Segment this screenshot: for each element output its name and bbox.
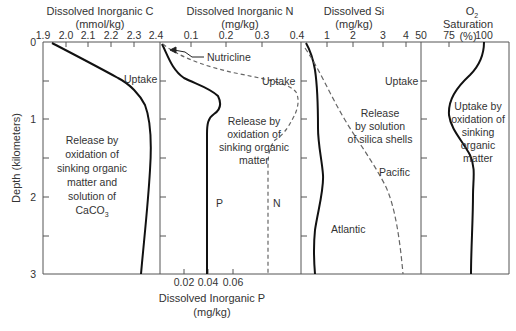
y-tick-2: 2 [30, 191, 36, 203]
silica-uptake-label: Uptake [385, 75, 418, 87]
silica-tick-4: 4 [403, 29, 409, 41]
carbon-tick-2.2: 2.2 [104, 29, 119, 41]
svg-text:Release by: Release by [66, 134, 119, 146]
svg-text:of silica shells: of silica shells [348, 133, 413, 145]
svg-text:Release: Release [361, 107, 400, 119]
silica-tick-3: 3 [380, 29, 386, 41]
nitrogen-title: Dissolved Inorganic N [187, 5, 294, 17]
oxygen-tick-50: 50 [415, 29, 427, 41]
svg-text:by solution: by solution [355, 120, 405, 132]
oxygen-title: O2 [466, 5, 479, 19]
svg-text:Release by: Release by [228, 115, 281, 127]
p-tick-0.04: 0.04 [198, 276, 219, 288]
oxygen-tick-75: 75 [443, 29, 455, 41]
nitrogen-uptake-label: Uptake [262, 75, 295, 87]
carbon-uptake-label: Uptake [124, 73, 157, 85]
pacific-label: Pacific [379, 166, 410, 178]
y-axis-label: Depth (kilometers) [10, 113, 22, 203]
svg-text:Uptake by: Uptake by [454, 100, 502, 112]
nutricline-label: Nutricline [207, 51, 251, 63]
n-series-label: N [273, 197, 281, 209]
carbon-tick-2.4: 2.4 [149, 29, 164, 41]
silica-annotation: Release by solution of silica shells [348, 107, 413, 145]
svg-text:solution of: solution of [68, 190, 116, 202]
y-tick-1: 1 [30, 113, 36, 125]
svg-text:CaCO3: CaCO3 [75, 204, 108, 218]
phosphorus-curve [162, 44, 220, 274]
carbon-tick-2.0: 2.0 [59, 29, 74, 41]
nitrogen-annotation: Release by oxidation of sinking organic … [219, 115, 289, 166]
carbon-title: Dissolved Inorganic C [47, 5, 154, 17]
svg-text:oxidation of: oxidation of [227, 128, 281, 140]
nitrogen-tick-0.4: 0.4 [290, 29, 305, 41]
phosphorus-units: (mg/kg) [193, 306, 230, 318]
ocean-profiles-chart: 0 1 2 3 Depth (kilometers) Dissolved Ino… [0, 0, 516, 331]
silica-atlantic-curve [306, 43, 323, 274]
silica-title: Dissolved Si [324, 5, 385, 17]
bottom-p-ticks [184, 269, 233, 274]
svg-text:sinking organic: sinking organic [57, 162, 127, 174]
carbon-tick-2.3: 2.3 [127, 29, 142, 41]
p-tick-0.06: 0.06 [223, 276, 244, 288]
svg-text:oxidation of: oxidation of [451, 113, 505, 125]
oxygen-tick-100: 100 [475, 29, 493, 41]
p-series-label: P [216, 197, 223, 209]
nutricline-arrow [170, 47, 204, 57]
phosphorus-title: Dissolved Inorganic P [159, 292, 265, 304]
carbon-tick-2.1: 2.1 [81, 29, 96, 41]
svg-text:matter: matter [239, 154, 269, 166]
p-tick-0.02: 0.02 [174, 276, 195, 288]
svg-text:matter: matter [463, 152, 493, 164]
silica-tick-2: 2 [350, 29, 356, 41]
svg-text:sinking organic: sinking organic [219, 141, 289, 153]
atlantic-label: Atlantic [331, 223, 365, 235]
carbon-tick-1.9: 1.9 [36, 29, 51, 41]
oxygen-units: (%) [459, 30, 476, 42]
svg-text:organic: organic [461, 139, 495, 151]
nitrogen-tick-0.3: 0.3 [255, 29, 270, 41]
svg-text:sinking: sinking [462, 126, 495, 138]
svg-text:oxidation of: oxidation of [65, 148, 119, 160]
nitrogen-tick-0.1: 0.1 [184, 29, 199, 41]
silica-tick-1: 1 [324, 29, 330, 41]
oxygen-annotation: Uptake by oxidation of sinking organic m… [451, 100, 505, 164]
nitrogen-tick-0.2: 0.2 [219, 29, 234, 41]
y-tick-3: 3 [30, 268, 36, 280]
top-x-ticks [66, 42, 449, 47]
carbon-annotation: Release by oxidation of sinking organic … [57, 134, 127, 218]
svg-text:matter and: matter and [67, 176, 117, 188]
